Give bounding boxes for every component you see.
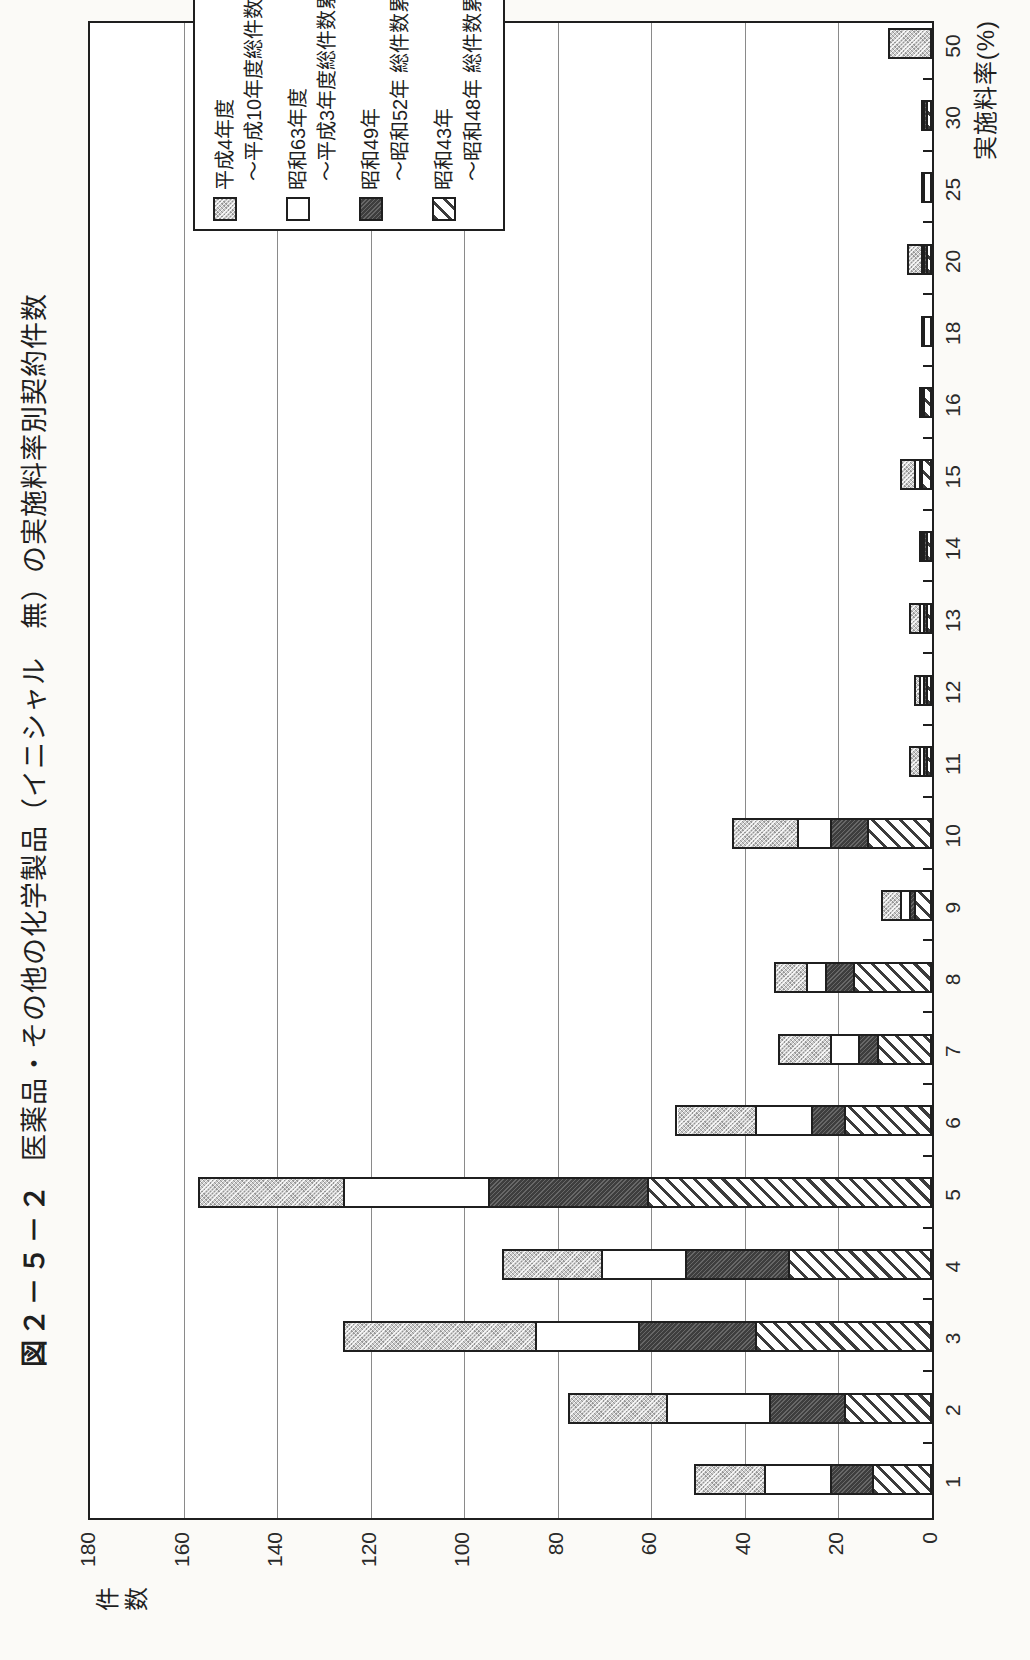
legend-entry: 平成4年度～平成10年度総件数累計 xyxy=(211,0,269,221)
xtick-label-1: 1 xyxy=(941,1447,965,1517)
rotated-chart-page: 図２－５－２医薬品・その他の化学製品（イニシャル 無）の実施料率別契約件数 件数… xyxy=(0,0,1030,1660)
bar-segment-white xyxy=(757,1108,813,1135)
bar-segment-hatch xyxy=(925,390,930,417)
bar-segment-hatch xyxy=(757,1323,930,1350)
xtick-label-10: 10 xyxy=(941,801,965,871)
legend-label-line1: 昭和63年度 xyxy=(284,88,313,190)
bar-segment-hatch xyxy=(928,605,930,632)
xtick-label-30: 30 xyxy=(941,83,965,153)
gridline-100 xyxy=(464,23,465,1518)
bar-segment-white xyxy=(925,174,930,201)
stacked-bar-13 xyxy=(909,603,932,634)
category-boundary-tick xyxy=(923,724,932,726)
bar-segment-dark xyxy=(640,1323,757,1350)
bar-segment-hatch xyxy=(928,246,930,273)
legend-label-line2: ～昭和52年 総件数累計 xyxy=(386,0,415,181)
stacked-bar-14 xyxy=(919,531,932,562)
bar-segment-dark xyxy=(832,1467,874,1494)
xtick-label-8: 8 xyxy=(941,944,965,1014)
bar-segment-light xyxy=(911,605,920,632)
bar-segment-white xyxy=(668,1395,771,1422)
xtick-label-6: 6 xyxy=(941,1088,965,1158)
bar-segment-light xyxy=(504,1251,602,1278)
legend-label-line1: 昭和49年 xyxy=(357,108,386,190)
y-axis-unit-label: 件数 xyxy=(94,1584,152,1614)
stacked-bar-11 xyxy=(909,747,932,778)
category-boundary-tick xyxy=(923,868,932,870)
bar-segment-hatch xyxy=(928,677,930,704)
xtick-label-4: 4 xyxy=(941,1232,965,1302)
legend-label-line1: 平成4年度 xyxy=(211,99,240,190)
category-boundary-tick xyxy=(923,652,932,654)
stacked-bar-1 xyxy=(694,1465,932,1496)
stacked-bar-10 xyxy=(732,818,933,849)
bar-segment-hatch xyxy=(855,964,930,991)
stacked-bar-12 xyxy=(914,675,932,706)
category-boundary-tick xyxy=(923,1083,932,1085)
category-boundary-tick xyxy=(923,150,932,152)
bar-segment-hatch xyxy=(928,533,930,560)
category-boundary-tick xyxy=(923,509,932,511)
bar-segment-hatch xyxy=(874,1467,930,1494)
bar-segment-dark xyxy=(832,820,869,847)
legend-entry: 昭和49年～昭和52年 総件数累計 xyxy=(357,0,415,221)
xtick-label-13: 13 xyxy=(941,585,965,655)
chart-title: 図２－５－２医薬品・その他の化学製品（イニシャル 無）の実施料率別契約件数 xyxy=(13,0,52,1660)
stacked-bar-6 xyxy=(675,1106,932,1137)
gridline-160 xyxy=(184,23,185,1518)
category-boundary-tick xyxy=(923,293,932,295)
bar-segment-white xyxy=(925,318,930,345)
legend-label-line1: 昭和43年 xyxy=(430,108,459,190)
bar-segment-light xyxy=(776,964,809,991)
gridline-60 xyxy=(651,23,652,1518)
stacked-bar-7 xyxy=(778,1034,932,1065)
bar-segment-dark xyxy=(813,1108,846,1135)
legend-swatch-hatch xyxy=(432,197,456,221)
bar-segment-light xyxy=(890,31,930,58)
bar-segment-light xyxy=(911,749,920,776)
category-boundary-tick xyxy=(923,365,932,367)
bar-segment-light xyxy=(902,461,916,488)
bar-segment-white xyxy=(766,1467,832,1494)
xtick-label-50: 50 xyxy=(941,11,965,81)
category-boundary-tick xyxy=(923,1155,932,1157)
bar-segment-dark xyxy=(771,1395,846,1422)
stacked-bar-9 xyxy=(881,890,932,921)
bar-segment-light xyxy=(883,892,902,919)
legend-label-line2: ～平成10年度総件数累計 xyxy=(240,0,269,181)
bar-segment-white xyxy=(537,1323,640,1350)
ytick-label-60: 60 xyxy=(637,1532,661,1582)
xtick-label-9: 9 xyxy=(941,873,965,943)
category-boundary-tick xyxy=(923,1011,932,1013)
legend-box: 平成4年度～平成10年度総件数累計昭和63年度～平成3年度総件数累計昭和49年～… xyxy=(193,0,505,231)
stacked-bar-3 xyxy=(343,1321,932,1352)
legend-swatch-dark xyxy=(359,197,383,221)
category-boundary-tick xyxy=(923,437,932,439)
bar-segment-hatch xyxy=(879,1036,931,1063)
category-boundary-tick xyxy=(923,1299,932,1301)
bar-segment-light xyxy=(734,820,800,847)
bar-segment-hatch xyxy=(790,1251,930,1278)
chart-title-text: 医薬品・その他の化学製品（イニシャル 無）の実施料率別契約件数 xyxy=(20,293,50,1161)
bar-segment-white xyxy=(799,820,832,847)
stacked-bar-2 xyxy=(568,1393,932,1424)
gridline-140 xyxy=(277,23,278,1518)
bar-segment-white xyxy=(902,892,911,919)
bar-segment-light xyxy=(909,246,923,273)
ytick-label-160: 160 xyxy=(170,1532,194,1582)
stacked-bar-8 xyxy=(774,962,932,993)
bar-segment-light xyxy=(678,1108,758,1135)
xtick-label-7: 7 xyxy=(941,1016,965,1086)
category-boundary-tick xyxy=(923,1227,932,1229)
bar-segment-white xyxy=(832,1036,860,1063)
bar-segment-hatch xyxy=(916,892,930,919)
bar-segment-white xyxy=(345,1179,490,1206)
bar-segment-light xyxy=(780,1036,832,1063)
bar-segment-dark xyxy=(490,1179,649,1206)
legend-entry: 昭和63年度～平成3年度総件数累計 xyxy=(284,0,342,221)
legend-swatch-white xyxy=(286,197,310,221)
xtick-label-18: 18 xyxy=(941,298,965,368)
xtick-label-20: 20 xyxy=(941,226,965,296)
xtick-label-16: 16 xyxy=(941,370,965,440)
stacked-bar-50 xyxy=(888,29,932,60)
